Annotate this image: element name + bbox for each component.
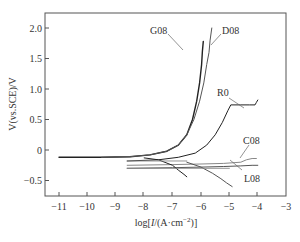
y-tick-label: −0.5 bbox=[24, 175, 42, 186]
label-c08: C08 bbox=[243, 135, 260, 146]
x-tick-label: −5 bbox=[224, 201, 235, 212]
y-tick-labels: −0.5 0 0.5 1.0 1.5 2.0 bbox=[24, 23, 42, 187]
x-tick-label: −9 bbox=[110, 201, 121, 212]
label-g08: G08 bbox=[150, 25, 167, 36]
y-tick-label: 2.0 bbox=[30, 23, 43, 34]
x-axis bbox=[59, 192, 257, 196]
x-tick-label: −8 bbox=[138, 201, 149, 212]
x-axis-title: log[I/(A·cm−2)] bbox=[135, 216, 197, 229]
x-tick-label: −11 bbox=[51, 201, 66, 212]
label-d08: D08 bbox=[222, 25, 239, 36]
curve-r0-c08-l08-cathodic bbox=[187, 162, 232, 186]
label-r0: R0 bbox=[217, 87, 229, 98]
curve-r0 bbox=[127, 100, 258, 161]
y-tick-label: 1.0 bbox=[30, 84, 43, 95]
curve-g08 bbox=[59, 41, 203, 157]
polarization-chart: −0.5 0 0.5 1.0 1.5 2.0 −11 −10 −9 −8 −7 … bbox=[0, 0, 300, 242]
y-tick-label: 0.5 bbox=[30, 114, 43, 125]
x-tick-label: −10 bbox=[79, 201, 95, 212]
y-axis-title: V(vs.SCE)/V bbox=[7, 76, 19, 130]
y-tick-label: 1.5 bbox=[30, 53, 43, 64]
curve-d08 bbox=[102, 28, 212, 157]
x-tick-label: −3 bbox=[281, 201, 292, 212]
x-tick-label: −4 bbox=[252, 201, 263, 212]
label-l08: L08 bbox=[244, 173, 260, 184]
x-tick-label: −6 bbox=[196, 201, 207, 212]
y-tick-label: 0 bbox=[37, 145, 42, 156]
curves bbox=[59, 28, 258, 187]
y-axis bbox=[45, 28, 49, 181]
x-tick-label: −7 bbox=[167, 201, 178, 212]
x-tick-labels: −11 −10 −9 −8 −7 −6 −5 −4 −3 bbox=[51, 201, 291, 212]
